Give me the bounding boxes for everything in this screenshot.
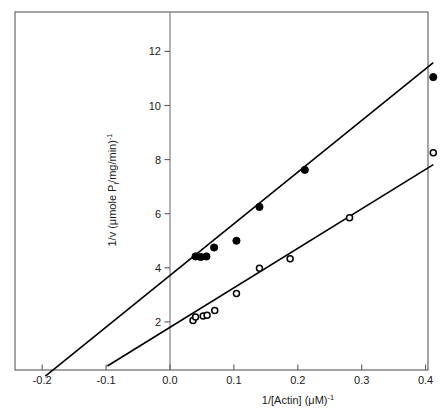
data-point-open bbox=[212, 308, 218, 314]
data-point-open bbox=[287, 256, 293, 262]
x-tick-label: -0.2 bbox=[33, 374, 52, 386]
data-point-open bbox=[233, 290, 239, 296]
lineweaver-burk-plot: -0.2-0.10.00.10.20.30.4246810121/[Actin]… bbox=[0, 0, 443, 418]
data-point-open bbox=[204, 312, 210, 318]
plot-frame bbox=[15, 12, 428, 370]
x-tick-label: -0.1 bbox=[97, 374, 116, 386]
y-tick-label: 6 bbox=[155, 208, 161, 220]
chart-canvas: -0.2-0.10.00.10.20.30.4246810121/[Actin]… bbox=[0, 0, 443, 418]
x-tick-label: 0.4 bbox=[418, 374, 433, 386]
data-point-filled bbox=[203, 253, 210, 260]
x-axis-title: 1/[Actin] (μM)-1 bbox=[262, 393, 334, 406]
data-point-filled bbox=[210, 244, 217, 251]
x-axis: -0.2-0.10.00.10.20.30.4 bbox=[33, 365, 434, 387]
fit-line-filled-circles bbox=[45, 63, 433, 377]
x-tick-label: 0.1 bbox=[226, 374, 241, 386]
data-point-open bbox=[193, 314, 199, 320]
data-point-open bbox=[430, 150, 436, 156]
series-open-circles bbox=[107, 150, 436, 366]
y-tick-label: 10 bbox=[149, 100, 161, 112]
data-point-open bbox=[347, 215, 353, 221]
y-tick-label: 2 bbox=[155, 316, 161, 328]
x-tick-label: 0.3 bbox=[354, 374, 369, 386]
data-point-filled bbox=[430, 73, 437, 80]
y-axis-title: 1/v (μmole Pi/mg/min)-1 bbox=[105, 133, 121, 246]
y-axis: 24681012 bbox=[149, 45, 170, 328]
y-tick-label: 8 bbox=[155, 154, 161, 166]
series-filled-circles bbox=[45, 63, 436, 377]
data-point-filled bbox=[301, 166, 308, 173]
y-tick-label: 4 bbox=[155, 262, 161, 274]
data-point-filled bbox=[256, 203, 263, 210]
y-tick-label: 12 bbox=[149, 45, 161, 57]
data-point-open bbox=[256, 265, 262, 271]
x-tick-label: 0.2 bbox=[290, 374, 305, 386]
data-point-filled bbox=[233, 237, 240, 244]
x-tick-label: 0.0 bbox=[162, 374, 177, 386]
